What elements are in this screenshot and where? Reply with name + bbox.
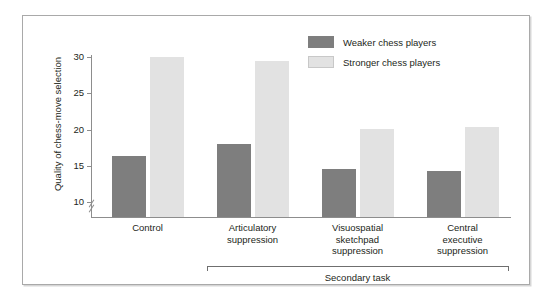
x-axis-label: Control [96,222,200,234]
legend-item-weaker: Weaker chess players [308,36,440,48]
chart-legend: Weaker chess players Stronger chess play… [308,36,440,76]
y-axis-line [91,55,92,217]
legend-swatch-icon [308,36,334,48]
x-axis-line [91,217,511,218]
y-tick-label: 30 [73,52,84,62]
x-axis-label-line: suppression [411,245,515,257]
y-tick-mark [87,130,92,131]
bar [217,144,251,217]
x-axis-label-line: Articulatory [201,222,305,234]
x-axis-label-line: Visuospatial [306,222,410,234]
x-axis-label-line: sketchpad [306,234,410,246]
bar [255,61,289,217]
x-axis-label-line: executive [411,234,515,246]
y-tick-mark [87,93,92,94]
y-axis-title-text: Quality of chess-move selection [51,29,65,219]
y-tick-mark [87,166,92,167]
x-axis-label-line: Central [411,222,515,234]
bar [360,129,394,217]
y-tick-mark [87,202,92,203]
plot-area: 3025201510 ControlArticulatorysuppressio… [91,29,511,219]
secondary-task-bracket [207,266,509,271]
legend-swatch-icon [308,56,334,68]
secondary-task-label: Secondary task [207,272,509,283]
bar [322,169,356,217]
chart-panel: Quality of chess-move selection 30252015… [22,15,530,285]
y-tick-label: 20 [73,125,84,135]
y-tick-label: 25 [73,89,84,99]
bar [427,171,461,217]
x-axis-label-line: Control [96,222,200,234]
x-axis-label: Articulatorysuppression [201,222,305,245]
bar [112,156,146,217]
y-tick-label: 10 [73,198,84,208]
x-axis-label: Centralexecutivesuppression [411,222,515,257]
axis-break-icon [86,199,98,213]
x-axis-label: Visuospatialsketchpadsuppression [306,222,410,257]
legend-item-stronger: Stronger chess players [308,56,440,68]
bar [465,127,499,217]
x-axis-label-line: suppression [306,245,410,257]
x-axis-label-line: suppression [201,234,305,246]
y-tick-label: 15 [73,161,84,171]
figure-root: Quality of chess-move selection 30252015… [0,0,554,300]
legend-label: Stronger chess players [343,57,440,68]
bar [150,57,184,217]
y-axis-title: Quality of chess-move selection [51,0,65,29]
y-tick-mark [87,57,92,58]
legend-label: Weaker chess players [343,37,436,48]
